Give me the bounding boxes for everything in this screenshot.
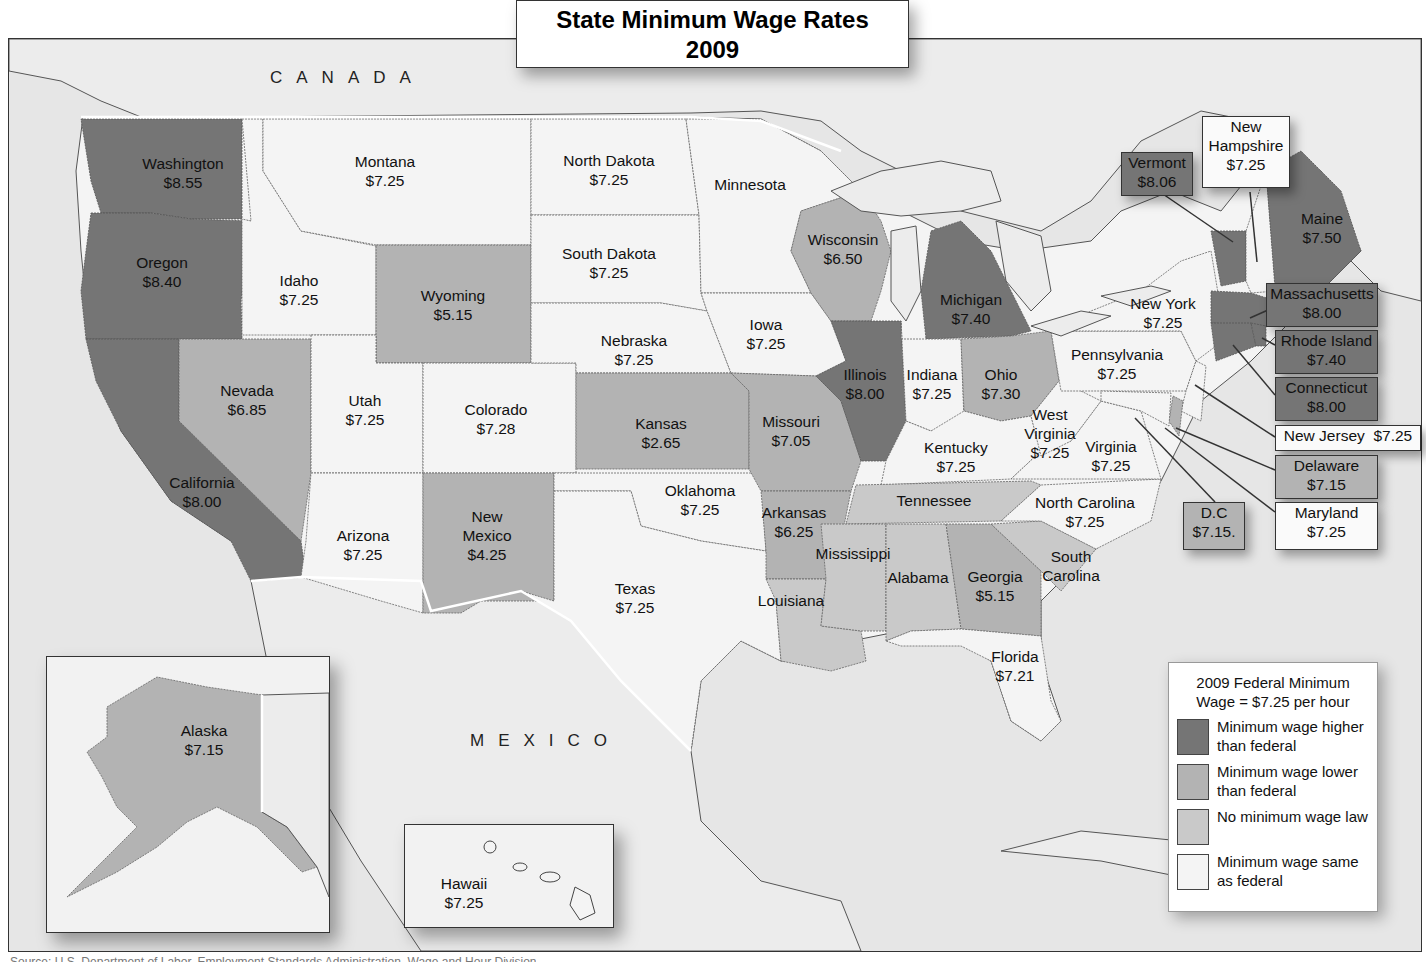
label-alaska: Alaska$7.15 <box>181 721 228 759</box>
title-line2: 2009 <box>517 35 908 65</box>
legend-label-lower: Minimum wage lower than federal <box>1217 762 1369 800</box>
callout-maryland: Maryland$7.25 <box>1275 502 1378 550</box>
callout-dc: D.C$7.15. <box>1183 502 1245 550</box>
legend-swatch-lower <box>1177 764 1209 800</box>
leader-new-hampshire <box>1250 192 1257 262</box>
callout-connecticut: Connecticut$8.00 <box>1275 377 1378 421</box>
leader-connecticut <box>1233 345 1275 395</box>
legend-item-higher: Minimum wage higher than federal <box>1177 717 1369 755</box>
leader-maryland <box>1165 428 1275 512</box>
legend-title: 2009 Federal Minimum Wage = $7.25 per ho… <box>1177 673 1369 711</box>
legend-item-none: No minimum wage law <box>1177 807 1369 845</box>
callout-rhode-island: Rhode Island$7.40 <box>1275 330 1378 374</box>
callout-vermont: Vermont$8.06 <box>1121 152 1193 196</box>
legend-label-higher: Minimum wage higher than federal <box>1217 717 1369 755</box>
legend-swatch-same <box>1177 854 1209 890</box>
legend-swatch-none <box>1177 809 1209 845</box>
leader-rhode-island <box>1262 338 1275 345</box>
legend-label-same: Minimum wage same as federal <box>1217 852 1369 890</box>
callout-massachusetts: Massachusetts$8.00 <box>1266 283 1378 327</box>
leader-vermont <box>1160 192 1233 242</box>
callout-delaware: Delaware$7.15 <box>1275 455 1378 499</box>
legend-swatch-higher <box>1177 719 1209 755</box>
legend-item-same: Minimum wage same as federal <box>1177 852 1369 890</box>
leader-dc <box>1135 418 1215 502</box>
legend-item-lower: Minimum wage lower than federal <box>1177 762 1369 800</box>
leader-delaware <box>1176 428 1275 470</box>
leader-new-jersey <box>1195 385 1275 437</box>
label-hawaii: Hawaii$7.25 <box>441 874 488 912</box>
map-title: State Minimum Wage Rates 2009 <box>516 0 909 68</box>
legend-label-none: No minimum wage law <box>1217 807 1368 826</box>
title-line1: State Minimum Wage Rates <box>517 5 908 35</box>
callout-new-hampshire: NewHampshire$7.25 <box>1202 116 1290 188</box>
legend: 2009 Federal Minimum Wage = $7.25 per ho… <box>1168 662 1378 912</box>
callout-new-jersey: New Jersey $7.25 <box>1275 425 1421 451</box>
